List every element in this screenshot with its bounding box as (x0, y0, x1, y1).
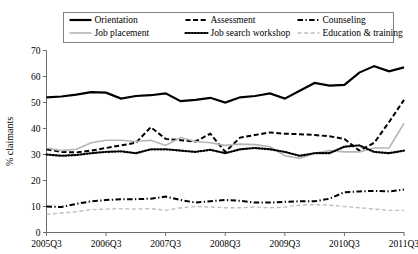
series-line-orientation (47, 66, 405, 102)
line-chart: 010203040506070% claimants2005Q32006Q320… (0, 0, 418, 254)
legend-label: Assessment (211, 15, 256, 25)
x-tick-label: 2010Q3 (329, 239, 360, 249)
legend-label: Job search workshop (211, 28, 291, 38)
legend-label: Job placement (95, 28, 150, 38)
y-axis-ticks: 010203040506070 (31, 46, 47, 238)
y-tick-label: 50 (31, 98, 41, 108)
y-tick-label: 70 (31, 46, 41, 56)
y-tick-label: 10 (31, 202, 41, 212)
x-tick-label: 2009Q3 (270, 239, 301, 249)
y-tick-label: 30 (31, 150, 41, 160)
x-tick-label: 2006Q3 (91, 239, 122, 249)
y-axis-title-text: % claimants (4, 117, 15, 166)
x-tick-label: 2007Q3 (150, 239, 181, 249)
y-tick-label: 20 (31, 176, 41, 186)
x-tick-label: 2008Q3 (210, 239, 241, 249)
y-tick-label: 0 (36, 228, 41, 238)
y-axis-title: % claimants (4, 117, 15, 166)
series-line-assessment (47, 100, 405, 153)
series-line-education-training (47, 204, 405, 214)
legend-label: Orientation (95, 15, 139, 25)
chart-container: 010203040506070% claimants2005Q32006Q320… (0, 0, 418, 254)
legend-label: Education & training (323, 28, 403, 38)
legend: OrientationAssessmentCounselingJob place… (64, 13, 403, 43)
series-group (47, 66, 405, 214)
legend-label: Counseling (323, 15, 367, 25)
series-line-counseling (47, 190, 405, 207)
y-tick-label: 60 (31, 72, 41, 82)
x-tick-label: 2005Q3 (31, 239, 62, 249)
x-axis-ticks: 2005Q32006Q32007Q32008Q32009Q32010Q32011… (31, 233, 418, 249)
y-tick-label: 40 (31, 124, 41, 134)
x-tick-label: 2011Q3 (389, 239, 418, 249)
